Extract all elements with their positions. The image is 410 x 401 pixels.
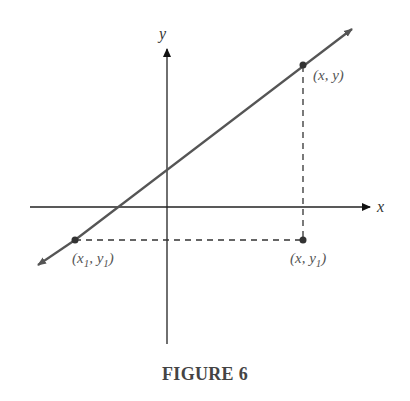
y-axis-label: y bbox=[157, 25, 167, 43]
label-x-y: (x, y) bbox=[313, 67, 344, 84]
coordinate-diagram: x y (x, y) (x1, y1) (x, y1) bbox=[0, 0, 410, 401]
point-x-y1 bbox=[300, 237, 307, 244]
x-axis-label: x bbox=[376, 198, 384, 215]
straight-line bbox=[75, 29, 352, 240]
label-x1-y1: (x1, y1) bbox=[72, 250, 114, 269]
label-x-y1: (x, y1) bbox=[290, 250, 326, 269]
figure-caption: FIGURE 6 bbox=[0, 364, 410, 385]
point-x1-y1 bbox=[72, 237, 79, 244]
straight-line-lower-extension bbox=[38, 240, 75, 265]
point-x-y bbox=[300, 62, 307, 69]
